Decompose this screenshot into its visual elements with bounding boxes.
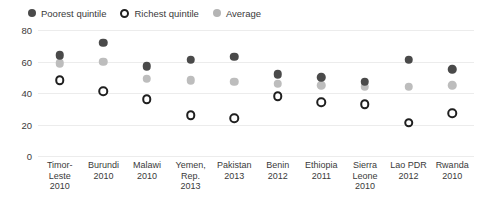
y-axis-tick-label: 80 bbox=[21, 25, 32, 36]
y-axis-tick-label: 40 bbox=[21, 88, 32, 99]
plot-area: 020406080 bbox=[38, 30, 474, 156]
category-column bbox=[169, 30, 213, 156]
point-poorest-quintile bbox=[448, 65, 457, 74]
chart-legend: Poorest quintile Richest quintile Averag… bbox=[28, 4, 261, 22]
y-axis-tick-label: 60 bbox=[21, 56, 32, 67]
point-richest-quintile bbox=[447, 109, 457, 119]
point-richest-quintile bbox=[360, 99, 370, 109]
point-poorest-quintile bbox=[404, 56, 413, 65]
point-poorest-quintile bbox=[361, 78, 370, 87]
point-richest-quintile bbox=[142, 95, 152, 105]
point-richest-quintile bbox=[229, 113, 239, 123]
point-richest-quintile bbox=[186, 110, 196, 120]
point-average bbox=[404, 82, 413, 91]
point-poorest-quintile bbox=[99, 38, 108, 47]
x-axis-tick-label: Timor-Leste2010 bbox=[38, 160, 82, 192]
category-column bbox=[82, 30, 126, 156]
category-column bbox=[212, 30, 256, 156]
x-axis-labels: Timor-Leste2010Burundi2010Malawi2010Yeme… bbox=[38, 160, 474, 192]
point-poorest-quintile bbox=[274, 70, 283, 79]
legend-item-average: Average bbox=[213, 8, 261, 19]
point-richest-quintile bbox=[273, 91, 283, 101]
average-marker-icon bbox=[213, 9, 221, 17]
category-column bbox=[256, 30, 300, 156]
point-poorest-quintile bbox=[317, 73, 326, 82]
point-poorest-quintile bbox=[230, 53, 239, 62]
chart-root: Poorest quintile Richest quintile Averag… bbox=[0, 0, 482, 199]
point-average bbox=[56, 59, 65, 68]
gridline bbox=[38, 156, 474, 157]
x-axis-tick-label: Pakistan2013 bbox=[212, 160, 256, 192]
poorest-quintile-marker-icon bbox=[28, 9, 36, 17]
x-axis-tick-label: SierraLeone2010 bbox=[343, 160, 387, 192]
point-richest-quintile bbox=[55, 76, 65, 86]
point-average bbox=[317, 81, 326, 90]
point-average bbox=[448, 81, 457, 90]
legend-item-poorest: Poorest quintile bbox=[28, 8, 106, 19]
category-column bbox=[300, 30, 344, 156]
point-richest-quintile bbox=[99, 87, 109, 97]
x-axis-tick-label: Ethiopia2011 bbox=[300, 160, 344, 192]
category-column bbox=[430, 30, 474, 156]
legend-label-richest: Richest quintile bbox=[134, 8, 198, 19]
category-column bbox=[125, 30, 169, 156]
point-average bbox=[143, 75, 152, 84]
x-axis-tick-label: Lao PDR2012 bbox=[387, 160, 431, 192]
richest-quintile-marker-icon bbox=[120, 9, 129, 18]
point-poorest-quintile bbox=[56, 51, 65, 60]
x-axis-tick-label: Burundi2010 bbox=[82, 160, 126, 192]
category-column bbox=[343, 30, 387, 156]
point-average bbox=[99, 57, 108, 66]
y-axis-tick-label: 20 bbox=[21, 119, 32, 130]
data-columns bbox=[38, 30, 474, 156]
point-richest-quintile bbox=[317, 98, 327, 108]
legend-item-richest: Richest quintile bbox=[120, 8, 198, 19]
category-column bbox=[38, 30, 82, 156]
x-axis-tick-label: Benin2012 bbox=[256, 160, 300, 192]
point-richest-quintile bbox=[404, 118, 414, 128]
category-column bbox=[387, 30, 431, 156]
point-average bbox=[186, 76, 195, 85]
legend-label-poorest: Poorest quintile bbox=[41, 8, 106, 19]
point-poorest-quintile bbox=[186, 56, 195, 65]
y-axis-tick-label: 0 bbox=[27, 151, 32, 162]
point-poorest-quintile bbox=[143, 62, 152, 71]
legend-label-average: Average bbox=[226, 8, 261, 19]
x-axis-tick-label: Rwanda2010 bbox=[430, 160, 474, 192]
point-average bbox=[230, 78, 239, 87]
x-axis-tick-label: Yemen,Rep.2013 bbox=[169, 160, 213, 192]
x-axis-tick-label: Malawi2010 bbox=[125, 160, 169, 192]
point-average bbox=[274, 79, 283, 88]
